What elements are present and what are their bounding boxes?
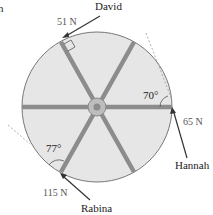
corner-text-fragment: n (0, 2, 4, 14)
rabina-magnitude: 115 N (43, 187, 67, 198)
rabina-label: Rabina (81, 202, 112, 214)
hannah-label: Hannah (175, 159, 210, 171)
hannah-magnitude: 65 N (183, 116, 203, 127)
rabina-angle: 77° (46, 142, 61, 154)
hub-inner (94, 104, 101, 111)
david-arrowhead (62, 32, 69, 38)
wheel-force-diagram: n David 51 N 70° 65 N Hannah 77° 115 N R… (0, 0, 213, 215)
hannah-angle: 70° (143, 89, 158, 101)
david-magnitude: 51 N (57, 16, 77, 27)
david-label: David (95, 0, 122, 12)
